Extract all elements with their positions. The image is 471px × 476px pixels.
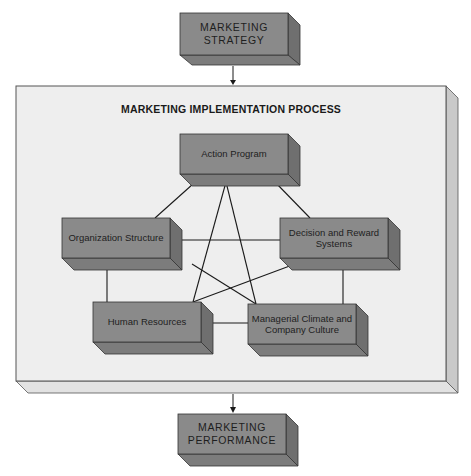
decision-reward-line2: Systems <box>316 238 352 249</box>
frame-title: MARKETING IMPLEMENTATION PROCESS <box>16 103 446 115</box>
organization-structure-label: Organization Structure <box>62 218 170 258</box>
human-resources-line1: Human Resources <box>108 316 187 327</box>
marketing-strategy-label: MARKETING STRATEGY <box>180 13 288 55</box>
organization-structure-line1: Organization Structure <box>68 232 163 243</box>
action-program-line1: Action Program <box>201 148 266 159</box>
marketing-performance-label: MARKETING PERFORMANCE <box>178 414 286 454</box>
marketing-performance-line1: MARKETING <box>198 421 266 434</box>
managerial-climate-label: Managerial Climate and Company Culture <box>248 304 356 344</box>
marketing-strategy-line1: MARKETING <box>200 21 268 34</box>
managerial-climate-line2: Company Culture <box>265 324 339 335</box>
action-program-label: Action Program <box>180 134 288 174</box>
marketing-strategy-line2: STRATEGY <box>204 34 265 47</box>
arrow-strategy-to-frame <box>230 66 236 85</box>
marketing-performance-line2: PERFORMANCE <box>188 434 276 447</box>
decision-reward-label: Decision and Reward Systems <box>280 218 388 258</box>
decision-reward-line1: Decision and Reward <box>289 227 379 238</box>
managerial-climate-line1: Managerial Climate and <box>252 313 352 324</box>
human-resources-label: Human Resources <box>93 302 201 342</box>
arrow-frame-to-performance <box>230 394 236 413</box>
